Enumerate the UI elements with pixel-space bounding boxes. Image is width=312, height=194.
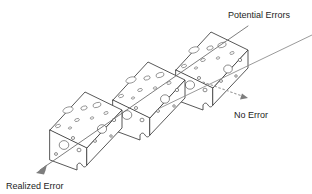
hole bbox=[71, 137, 74, 140]
diagram-canvas: Potential Errors No Error Realized Error bbox=[0, 0, 312, 194]
hole bbox=[110, 135, 113, 137]
hole bbox=[203, 88, 207, 92]
hole bbox=[235, 75, 238, 77]
no-error-arrowhead bbox=[240, 94, 248, 100]
hole bbox=[140, 118, 144, 122]
front-slab bbox=[50, 92, 122, 170]
hole bbox=[197, 77, 200, 80]
hole bbox=[134, 107, 137, 110]
hole bbox=[94, 140, 97, 143]
hole bbox=[161, 95, 170, 103]
label-realized-error: Realized Error bbox=[6, 181, 64, 191]
swiss-cheese-diagram: Potential Errors No Error Realized Error bbox=[0, 0, 312, 194]
hole bbox=[59, 141, 69, 150]
hole bbox=[175, 88, 178, 91]
label-potential-errors: Potential Errors bbox=[228, 10, 291, 20]
hole bbox=[224, 65, 233, 73]
hole bbox=[77, 148, 81, 152]
hole bbox=[173, 105, 176, 107]
hole bbox=[220, 80, 223, 83]
hole bbox=[55, 153, 58, 156]
hole bbox=[238, 58, 241, 61]
realized-error-arrowhead bbox=[36, 165, 47, 175]
hole bbox=[185, 81, 194, 89]
hole bbox=[157, 110, 160, 113]
label-no-error: No Error bbox=[234, 110, 268, 120]
